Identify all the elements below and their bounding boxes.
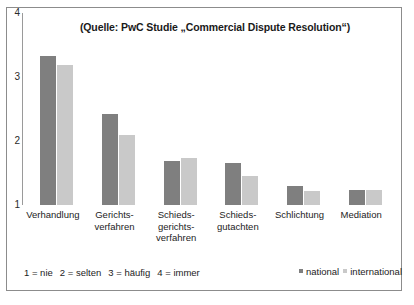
bar-national[interactable]: [287, 186, 303, 205]
legend-label: international: [350, 266, 402, 277]
bar-international[interactable]: [304, 191, 320, 205]
scale-legend: 1 = nie2 = selten3 = häufig4 = immer: [24, 267, 200, 278]
bar-national[interactable]: [164, 161, 180, 205]
plot-area: [22, 13, 392, 205]
scale-legend-item: 4 = immer: [157, 267, 200, 278]
bar-national[interactable]: [225, 163, 241, 205]
bar-international[interactable]: [242, 176, 258, 205]
scale-legend-item: 1 = nie: [24, 267, 53, 278]
bar-international[interactable]: [366, 190, 382, 205]
scale-legend-item: 2 = selten: [60, 267, 101, 278]
bar-international[interactable]: [181, 158, 197, 205]
bar-international[interactable]: [119, 135, 135, 205]
legend-entry-international[interactable]: international: [343, 266, 402, 277]
bar-group: [349, 13, 382, 205]
legend-label: national: [306, 266, 339, 277]
bar-group: [287, 13, 320, 205]
x-axis-label: Mediation: [324, 209, 398, 221]
bar-group: [225, 13, 258, 205]
y-axis-tick-4: 4: [8, 8, 20, 18]
legend-swatch-icon: [343, 269, 347, 273]
legend-entry-national[interactable]: national: [299, 266, 339, 277]
bar-international[interactable]: [57, 65, 73, 205]
scale-legend-item: 3 = häufig: [108, 267, 150, 278]
y-axis-tick-2: 2: [8, 136, 20, 146]
bar-group: [102, 13, 135, 205]
legend-swatch-icon: [299, 269, 303, 273]
bar-national[interactable]: [349, 190, 365, 205]
series-legend: nationalinternational: [299, 266, 402, 277]
chart-figure: (Quelle: PwC Studie „Commercial Dispute …: [0, 0, 414, 305]
bar-group: [164, 13, 197, 205]
y-axis-tick-3: 3: [8, 72, 20, 82]
bar-group: [40, 13, 73, 205]
bar-national[interactable]: [40, 56, 56, 205]
bar-national[interactable]: [102, 114, 118, 205]
